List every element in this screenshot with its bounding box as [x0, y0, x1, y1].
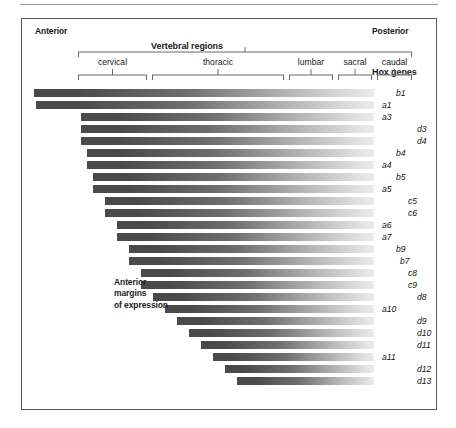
gene-label-a1: a1 — [382, 100, 392, 110]
gene-label-c9: c9 — [408, 280, 417, 290]
top-horizontal-rule — [20, 4, 438, 5]
gene-label-b5: b5 — [396, 172, 406, 182]
gene-label-c8: c8 — [408, 268, 417, 278]
expression-bar-d9 — [177, 317, 374, 325]
expression-bar-b7 — [129, 257, 374, 265]
gene-label-a3: a3 — [382, 112, 392, 122]
gene-label-c6: c6 — [408, 208, 417, 218]
gene-label-d13: d13 — [417, 376, 431, 386]
gene-label-b4: b4 — [396, 148, 406, 158]
expression-bar-a10 — [165, 305, 374, 313]
gene-label-a11: a11 — [382, 352, 396, 362]
gene-label-a6: a6 — [382, 220, 392, 230]
gene-label-b1: b1 — [396, 88, 406, 98]
gene-label-c5: c5 — [408, 196, 417, 206]
gene-label-d10: d10 — [417, 328, 431, 338]
gene-label-b9: b9 — [396, 244, 406, 254]
expression-bar-d10 — [189, 329, 374, 337]
gene-label-b7: b7 — [400, 256, 410, 266]
expression-bar-a3 — [81, 113, 374, 121]
expression-bar-a7 — [117, 233, 374, 241]
expression-bar-d11 — [201, 341, 374, 349]
gene-label-d11: d11 — [417, 340, 431, 350]
expression-bar-a6 — [117, 221, 374, 229]
expression-bar-b9 — [129, 245, 374, 253]
expression-bar-d8 — [153, 293, 374, 301]
gene-label-d4: d4 — [417, 136, 427, 146]
expression-bar-d3 — [81, 125, 374, 133]
figure-panel: Anterior Posterior Vertebral regions Hox… — [21, 18, 437, 410]
expression-bar-b1 — [34, 89, 374, 97]
gene-label-d3: d3 — [417, 124, 427, 134]
gene-label-a7: a7 — [382, 232, 392, 242]
anterior-margins-annotation: Anterior margins of expression — [114, 277, 168, 311]
expression-bar-a1 — [36, 101, 374, 109]
hox-expression-bars: b1a1a3d3d4b4a4b5a5c5c6a6a7b9b7c8c9d8a10d… — [22, 19, 438, 411]
expression-bar-a5 — [93, 185, 374, 193]
expression-bar-d13 — [237, 377, 374, 385]
expression-bar-b5 — [93, 173, 374, 181]
expression-bar-a4 — [87, 161, 374, 169]
gene-label-d12: d12 — [417, 364, 431, 374]
expression-bar-c6 — [105, 209, 374, 217]
expression-bar-d4 — [81, 137, 374, 145]
gene-label-a5: a5 — [382, 184, 392, 194]
expression-bar-a11 — [213, 353, 374, 361]
expression-bar-c8 — [141, 269, 374, 277]
gene-label-a10: a10 — [382, 304, 396, 314]
gene-label-a4: a4 — [382, 160, 392, 170]
gene-label-d9: d9 — [417, 316, 427, 326]
expression-bar-b4 — [87, 149, 374, 157]
gene-label-d8: d8 — [417, 292, 427, 302]
expression-bar-d12 — [225, 365, 374, 373]
expression-bar-c5 — [105, 197, 374, 205]
expression-bar-c9 — [141, 281, 374, 289]
